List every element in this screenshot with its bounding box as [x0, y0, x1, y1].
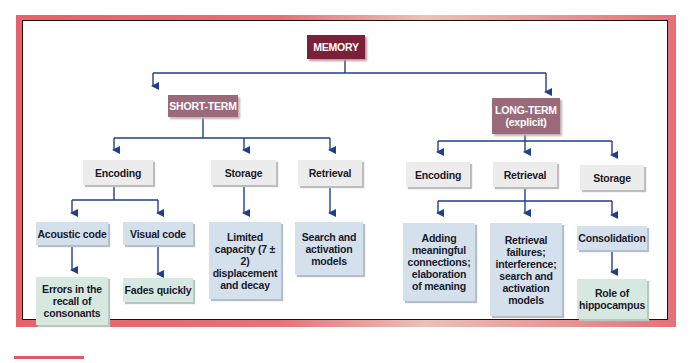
- acoustic-code-node: Acoustic code: [36, 222, 108, 245]
- search-activation-label: Search and activation models: [301, 231, 357, 267]
- lt-encoding-node: Encoding: [406, 162, 470, 187]
- long-term-label: LONG-TERM: [495, 104, 557, 116]
- st-encoding-label: Encoding: [95, 167, 141, 179]
- lt-encoding-label: Encoding: [415, 169, 461, 181]
- hippocampus-label: Role of hippocampus: [579, 287, 645, 311]
- consonant-errors-node: Errors in the recall of consonants: [36, 277, 108, 325]
- lt-storage-node: Storage: [580, 165, 644, 190]
- search-activation-node: Search and activation models: [295, 222, 363, 275]
- retrieval-failures-label: Retrieval failures; interference; search…: [494, 234, 558, 306]
- consonant-errors-label: Errors in the recall of consonants: [40, 283, 104, 319]
- adding-connections-node: Adding meaningful connections; elaborati…: [403, 223, 475, 301]
- lt-retrieval-label: Retrieval: [504, 169, 547, 181]
- hippocampus-node: Role of hippocampus: [577, 279, 647, 319]
- lt-retrieval-node: Retrieval: [493, 162, 557, 187]
- st-storage-node: Storage: [211, 160, 276, 185]
- acoustic-code-label: Acoustic code: [37, 228, 106, 240]
- st-retrieval-node: Retrieval: [298, 160, 362, 186]
- st-encoding-node: Encoding: [83, 160, 153, 185]
- st-storage-label: Storage: [225, 167, 263, 179]
- memory-node: MEMORY: [307, 35, 365, 59]
- long-term-sublabel: (explicit): [505, 116, 546, 128]
- memory-label: MEMORY: [313, 41, 359, 53]
- adding-connections-label: Adding meaningful connections; elaborati…: [407, 232, 471, 292]
- retrieval-failures-node: Retrieval failures; interference; search…: [490, 223, 562, 316]
- consolidation-label: Consolidation: [578, 232, 645, 244]
- fades-quickly-node: Fades quickly: [123, 278, 193, 302]
- limited-capacity-label: Limited capacity (7 ± 2) displacement an…: [213, 231, 278, 291]
- consolidation-node: Consolidation: [577, 226, 647, 250]
- short-term-node: SHORT-TERM: [168, 95, 238, 117]
- visual-code-label: Visual code: [130, 228, 186, 240]
- limited-capacity-node: Limited capacity (7 ± 2) displacement an…: [209, 222, 281, 299]
- short-term-label: SHORT-TERM: [169, 100, 236, 112]
- lt-storage-label: Storage: [593, 172, 631, 184]
- visual-code-node: Visual code: [123, 222, 193, 245]
- st-retrieval-label: Retrieval: [309, 167, 352, 179]
- figure-tab-mark: [14, 356, 84, 359]
- fades-quickly-label: Fades quickly: [125, 284, 192, 296]
- long-term-node: LONG-TERM (explicit): [492, 98, 560, 134]
